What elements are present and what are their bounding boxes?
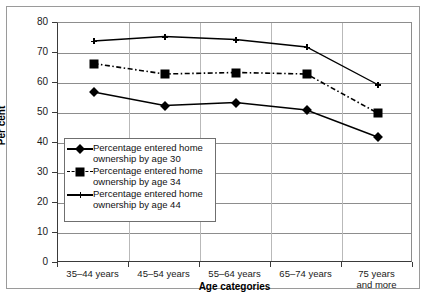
legend-item: Percentage entered homeownership by age … (67, 142, 213, 164)
data-point-marker (162, 34, 168, 40)
data-point-marker (231, 68, 240, 77)
chart-figure: Per cent 01020304050607080 35–44 years45… (0, 0, 428, 299)
data-point-marker (89, 59, 98, 68)
legend-item: Percentage entered homeownership by age … (67, 165, 213, 187)
legend-marker-plus-icon (67, 188, 93, 201)
legend-label: Percentage entered homeownership by age … (93, 188, 213, 210)
y-axis-tick-label: 80 (0, 17, 48, 27)
data-point-marker (91, 38, 97, 44)
chart-legend: Percentage entered homeownership by age … (64, 138, 216, 222)
legend-label-line: ownership by age 44 (93, 199, 213, 210)
y-axis-tick-label: 30 (0, 167, 48, 177)
data-point-marker (160, 70, 169, 79)
x-axis-category-label: 45–54 years (128, 268, 199, 279)
y-axis-tick-label: 40 (0, 137, 48, 147)
y-axis-tick-label: 50 (0, 107, 48, 117)
x-axis-category-label-line: 45–54 years (128, 268, 199, 279)
x-axis-category-label-line: 35–44 years (57, 268, 128, 279)
x-axis-category-label-line: 65–74 years (270, 268, 341, 279)
data-point-marker (375, 82, 381, 88)
legend-label-line: Percentage entered home (93, 165, 213, 176)
y-axis-tick-label: 20 (0, 197, 48, 207)
y-axis-tick-label: 70 (0, 47, 48, 57)
x-axis-category-label: 35–44 years (57, 268, 128, 279)
legend-label-line: ownership by age 34 (93, 176, 213, 187)
y-axis-tick-label: 60 (0, 77, 48, 87)
x-axis-category-label-line: 55–64 years (199, 268, 270, 279)
data-point-marker (373, 109, 382, 118)
legend-item: Percentage entered homeownership by age … (67, 188, 213, 210)
data-point-marker (233, 37, 239, 43)
legend-label: Percentage entered homeownership by age … (93, 142, 213, 164)
y-axis-tick-label: 10 (0, 227, 48, 237)
data-point-marker (302, 70, 311, 79)
legend-marker-diamond-icon (67, 142, 93, 155)
x-axis-category-label-line: 75 years (341, 268, 412, 279)
legend-label-line: ownership by age 30 (93, 153, 213, 164)
data-point-marker (304, 44, 310, 50)
legend-marker-square-icon (67, 165, 93, 178)
series-line (94, 37, 378, 85)
legend-label-line: Percentage entered home (93, 142, 213, 153)
legend-label: Percentage entered homeownership by age … (93, 165, 213, 187)
x-axis-category-label: 55–64 years (199, 268, 270, 279)
x-axis-title: Age categories (57, 281, 412, 292)
legend-label-line: Percentage entered home (93, 188, 213, 199)
x-axis-category-label: 65–74 years (270, 268, 341, 279)
y-axis-tick-label: 0 (0, 257, 48, 267)
